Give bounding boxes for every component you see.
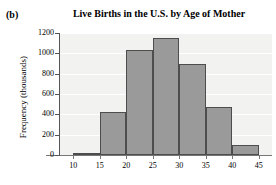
x-tick-mark <box>153 155 154 159</box>
panel-label: (b) <box>6 9 18 20</box>
y-tick-label-text: 200 <box>24 131 54 139</box>
x-tick-label: 30 <box>169 161 189 170</box>
bar <box>153 38 180 155</box>
plot-area <box>60 33 272 155</box>
y-tick-label: 1000 <box>20 49 54 57</box>
y-tick-label: 400 <box>20 110 54 118</box>
x-tick-mark <box>259 155 260 159</box>
bar <box>206 107 233 155</box>
chart-title: Live Births in the U.S. by Age of Mother <box>46 8 272 20</box>
y-tick-label: 1200 <box>20 29 54 37</box>
y-tick-label-text: 1000 <box>24 49 54 57</box>
x-tick-mark <box>232 155 233 159</box>
y-tick-mark <box>55 33 60 34</box>
bar <box>126 50 153 155</box>
x-tick-label: 40 <box>222 161 242 170</box>
bar <box>179 64 206 156</box>
x-tick-label: 35 <box>196 161 216 170</box>
y-tick-label-text: 1200 <box>24 29 54 37</box>
chart-figure: (b) Live Births in the U.S. by Age of Mo… <box>0 0 276 185</box>
bar <box>100 112 127 155</box>
x-tick-mark <box>206 155 207 159</box>
y-tick-label: 200 <box>20 131 54 139</box>
x-tick-mark <box>126 155 127 159</box>
y-tick-label: 800 <box>20 70 54 78</box>
x-tick-label: 10 <box>63 161 83 170</box>
bar <box>232 145 259 155</box>
y-tick-label: 0 <box>20 151 54 159</box>
y-tick-mark <box>55 53 60 54</box>
y-tick-mark <box>55 114 60 115</box>
gridline <box>60 33 272 34</box>
y-tick-label: 600 <box>20 90 54 98</box>
x-tick-mark <box>73 155 74 159</box>
x-axis-spine <box>46 155 272 156</box>
x-tick-mark <box>100 155 101 159</box>
y-tick-mark <box>55 155 60 156</box>
x-tick-label: 20 <box>116 161 136 170</box>
y-tick-mark <box>55 74 60 75</box>
y-tick-mark <box>55 135 60 136</box>
x-tick-mark <box>179 155 180 159</box>
y-tick-label-text: 600 <box>24 90 54 98</box>
y-tick-label-text: 800 <box>24 70 54 78</box>
x-tick-label: 15 <box>90 161 110 170</box>
x-tick-label: 45 <box>249 161 269 170</box>
x-tick-label: 25 <box>143 161 163 170</box>
y-tick-label-text: 0 <box>24 151 54 159</box>
y-tick-label-text: 400 <box>24 110 54 118</box>
y-tick-mark <box>55 94 60 95</box>
